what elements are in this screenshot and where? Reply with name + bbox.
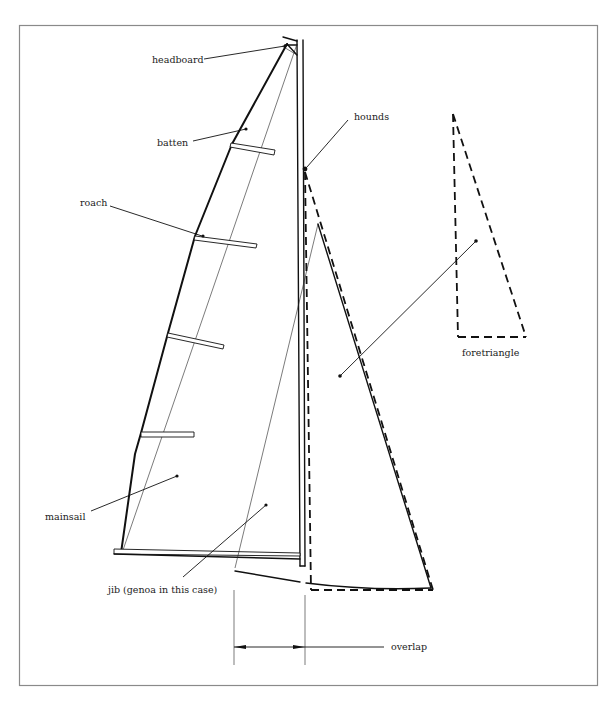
label-hounds: hounds: [354, 111, 389, 122]
mainsail-leader: [91, 476, 177, 511]
label-jib: jib (genoa in this case): [107, 584, 217, 595]
batten-1: [230, 143, 275, 155]
jib-leech: [318, 224, 431, 588]
jib-foot-curve: [306, 583, 431, 589]
mainsail-chord-line: [122, 44, 297, 553]
label-foretriangle: foretriangle: [462, 347, 520, 358]
foretriangle-leader: [340, 241, 476, 376]
label-overlap: overlap: [391, 641, 427, 652]
batten-4: [141, 432, 194, 437]
jib: [235, 224, 431, 589]
battens: [141, 143, 275, 437]
mast: [283, 37, 305, 566]
hounds-point: [303, 167, 308, 172]
hounds-leader: [307, 120, 348, 167]
label-roach: roach: [80, 197, 107, 208]
foretriangle-shape: [453, 114, 526, 337]
jib-leader: [183, 505, 266, 577]
mainsail-leech: [121, 44, 287, 553]
jib-luff: [235, 224, 318, 568]
label-mainsail: mainsail: [45, 511, 85, 522]
label-batten: batten: [157, 137, 188, 148]
jib-foot: [235, 571, 300, 582]
forestay: [305, 172, 433, 590]
boom: [114, 549, 300, 559]
overlap-dimension: [234, 590, 384, 665]
roach-leader: [110, 206, 202, 236]
batten-3: [167, 333, 224, 349]
batten-2: [194, 236, 257, 248]
leaders: [91, 44, 478, 577]
mainsail: [121, 44, 297, 553]
label-headboard: headboard: [152, 54, 204, 65]
headboard-leader: [204, 46, 285, 59]
sailplan-diagram: headboard hounds batten roach foretriang…: [0, 0, 613, 704]
